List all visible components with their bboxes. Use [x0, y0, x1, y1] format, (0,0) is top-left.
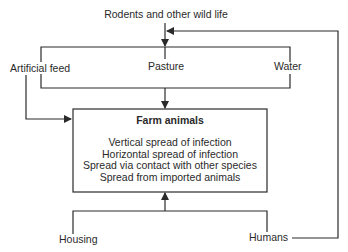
humans-feedback-connector — [167, 31, 338, 238]
spread-line: Spread via contact with other species — [83, 160, 257, 172]
spread-line: Vertical spread of infection — [83, 137, 257, 149]
diagram-canvas: Rodents and other wild life Artificial f… — [0, 0, 348, 252]
water-label: Water — [274, 60, 302, 72]
rodents-label: Rodents and other wild life — [104, 8, 228, 20]
artificial-feed-connector — [26, 75, 71, 119]
housing-humans-bracket — [73, 211, 267, 234]
connector-layer — [0, 0, 348, 252]
environment-bracket-bottom — [41, 74, 290, 88]
pasture-label: Pasture — [148, 60, 184, 72]
spread-line: Spread from imported animals — [83, 172, 257, 184]
housing-label: Housing — [59, 233, 98, 245]
farm-animals-title: Farm animals — [136, 114, 204, 126]
humans-label: Humans — [249, 231, 288, 243]
artificial-feed-label: Artificial feed — [10, 62, 70, 74]
farm-animals-lines: Vertical spread of infection Horizontal … — [83, 137, 257, 183]
